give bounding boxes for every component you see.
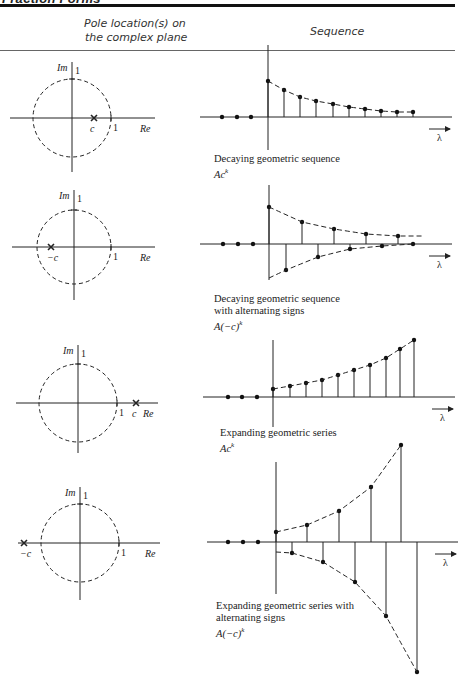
sample-dot [384,356,388,360]
caption-row-4: Expanding geometric series with alternat… [216,600,354,640]
im-label: Im [56,62,68,73]
sample-dot [221,242,225,246]
pole-diagram-3 [16,345,158,453]
unit-label-re: 1 [121,547,126,558]
sample-dot [220,115,224,119]
sample-dot [236,242,240,246]
re-label: Re [142,408,154,419]
im-label: Im [64,487,76,498]
unit-label-im: 1 [75,65,80,76]
sample-dot [255,395,259,399]
caption-row-2: Decaying geometric sequence with alterna… [214,293,340,333]
sample-dot [256,540,260,544]
caption-row-1: Decaying geometric sequence Ack [214,153,340,181]
lambda-label: λ [437,132,442,143]
diagram-canvas: Im11RecIm11Re−cIm11RecIm11Re−cλλλλ [0,0,470,682]
lambda-label: λ [440,412,445,423]
re-label: Re [144,548,156,559]
sequence-plot-2 [200,185,452,280]
sample-dot [241,540,245,544]
im-label: Im [62,345,74,356]
sample-dot [251,242,255,246]
lambda-label: λ [437,259,442,270]
sequence-plot-1 [200,45,452,150]
sample-dot [235,115,239,119]
sample-dot [316,255,320,259]
unit-label-im: 1 [77,193,82,204]
envelope-curve [268,81,413,112]
pole-label: c [90,123,95,134]
pole-label: −c [20,548,32,559]
unit-label-re: 1 [119,407,124,418]
sample-dot [249,115,253,119]
sample-dot [305,523,309,527]
caption-row-3: Expanding geometric series Ack [220,427,337,455]
unit-label-re: 1 [113,122,118,133]
unit-label-im: 1 [83,490,88,501]
im-label: Im [58,190,70,201]
pole-diagram-1 [10,62,155,172]
sample-dot [240,395,244,399]
unit-label-im: 1 [81,348,86,359]
lambda-label: λ [443,557,448,568]
re-label: Re [139,252,151,263]
sample-dot [226,540,230,544]
pole-diagram-2 [12,190,155,300]
envelope-curve [273,340,414,389]
sample-dot [226,395,230,399]
pole-label: −c [47,252,59,263]
envelope-curve [269,244,413,278]
envelope-curve [269,207,423,236]
pole-label: c [132,408,137,419]
pole-diagram-4 [18,487,160,600]
sequence-plot-3 [203,338,455,427]
unit-label-re: 1 [113,251,118,262]
re-label: Re [139,123,151,134]
